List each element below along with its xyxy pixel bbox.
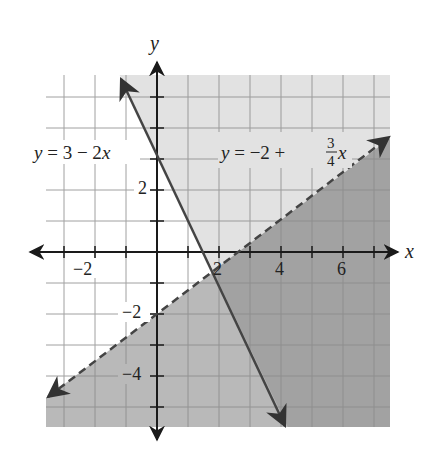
dashed-line-equation: y = −2 + 3 4 x xyxy=(218,132,352,169)
shaded-regions xyxy=(30,59,400,440)
x-axis-label: x xyxy=(404,240,414,262)
y-tick-label: −4 xyxy=(122,364,141,384)
svg-text:4: 4 xyxy=(327,153,335,169)
svg-text:3: 3 xyxy=(327,135,335,151)
y-tick-label: −2 xyxy=(122,302,141,322)
x-tick-label: 6 xyxy=(337,259,346,279)
svg-text:x: x xyxy=(337,142,347,163)
inequality-graph: x y −2 2 4 6 2 −2 −4 y = 3 − 2x y = −2 +… xyxy=(0,0,437,459)
svg-text:y = −2 +: y = −2 + xyxy=(219,142,285,163)
svg-text:y = 3 − 2x: y = 3 − 2x xyxy=(32,142,111,163)
x-tick-label: −2 xyxy=(73,259,92,279)
x-tick-label: 4 xyxy=(275,259,284,279)
y-tick-label: 2 xyxy=(138,178,147,198)
x-tick-label: 2 xyxy=(213,259,222,279)
solid-line-equation: y = 3 − 2x xyxy=(32,140,140,164)
y-axis-label: y xyxy=(148,32,159,55)
